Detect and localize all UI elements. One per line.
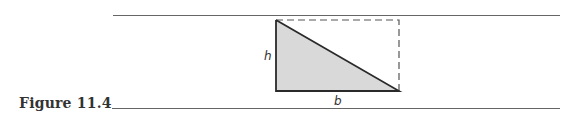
base-label: b <box>334 94 342 108</box>
height-label: h <box>264 49 272 63</box>
figure-caption: Figure 11.4 <box>19 95 112 111</box>
